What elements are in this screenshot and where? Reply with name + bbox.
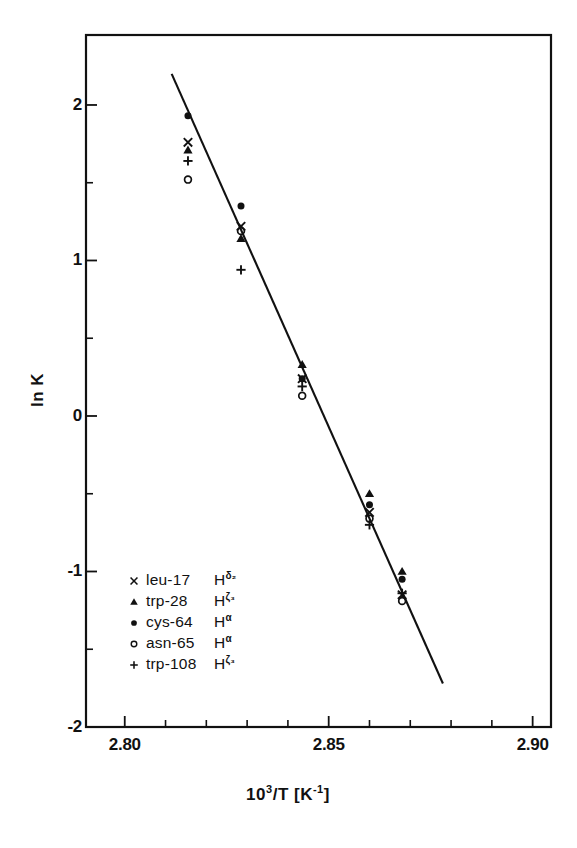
legend-proton-superscript: ζ₃	[225, 654, 235, 665]
data-point	[299, 392, 306, 399]
filled-circle-glyph	[399, 576, 406, 583]
legend-item: asn-65Hα	[126, 633, 236, 654]
van-t-hoff-plot-figure: 2.802.852.90 210-1-2 103/T [K-1] ln K le…	[0, 0, 577, 848]
marker-filled-triangle	[130, 598, 138, 604]
marker-open-circle	[131, 641, 137, 647]
filled-circle-glyph	[131, 620, 137, 626]
legend-marker-plus	[126, 657, 142, 673]
legend-label: trp-28Hζ₃	[146, 591, 235, 610]
x-axis-title-mantissa: 10	[246, 785, 266, 804]
data-point	[398, 567, 407, 575]
legend-proton-superscript: α	[225, 633, 231, 644]
legend-marker-filled-circle	[126, 615, 142, 631]
y-tick-label: -2	[56, 717, 82, 737]
legend-proton-superscript: ζ₃	[225, 591, 235, 602]
data-point	[183, 156, 192, 165]
legend-label: trp-108Hζ₃	[146, 654, 235, 673]
legend-marker-glyph	[126, 657, 142, 673]
legend-marker-cross	[126, 573, 142, 589]
legend-marker-open-circle	[126, 636, 142, 652]
y-tick-label: 2	[56, 95, 82, 115]
y-axis-title: ln K	[28, 373, 48, 407]
x-axis-title-exponent: 3	[266, 783, 273, 795]
data-point	[236, 265, 245, 274]
legend-residue: cys-64	[146, 613, 214, 631]
legend-label: cys-64Hα	[146, 612, 232, 631]
data-point	[399, 598, 406, 605]
y-tick-label: 1	[56, 250, 82, 270]
legend-proton-superscript: δ₂	[225, 570, 236, 581]
x-axis-title-unit-exponent: -1	[313, 783, 324, 795]
series-1	[183, 145, 406, 574]
y-tick-label: 0	[56, 406, 82, 426]
filled-circle-glyph	[238, 203, 245, 210]
filled-triangle-glyph	[398, 567, 407, 575]
legend-proton: Hζ₃	[214, 592, 235, 609]
plot-canvas	[0, 0, 577, 848]
legend-label: asn-65Hα	[146, 633, 232, 652]
series-3	[185, 176, 406, 604]
open-circle-glyph	[399, 598, 406, 605]
data-point	[238, 203, 245, 210]
legend-item: cys-64Hα	[126, 612, 236, 633]
legend-marker-glyph	[126, 636, 142, 652]
legend-marker-glyph	[126, 594, 142, 610]
legend-proton: Hα	[214, 613, 232, 630]
legend-residue: asn-65	[146, 634, 214, 652]
legend-item: trp-108Hζ₃	[126, 654, 236, 675]
legend-item: trp-28Hζ₃	[126, 591, 236, 612]
legend-marker-glyph	[126, 573, 142, 589]
filled-circle-glyph	[299, 375, 306, 382]
legend-item: leu-17Hδ₂	[126, 570, 236, 591]
data-point	[184, 112, 191, 119]
legend-proton-superscript: α	[225, 612, 231, 623]
data-markers	[183, 112, 406, 604]
x-axis-title-close: ]	[324, 785, 330, 804]
data-point	[299, 375, 306, 382]
legend-proton: Hδ₂	[214, 571, 236, 588]
data-point	[185, 176, 192, 183]
x-axis-title-rest: /T [K	[273, 785, 313, 804]
legend-label: leu-17Hδ₂	[146, 570, 236, 589]
legend-residue: trp-108	[146, 655, 214, 673]
series-4	[183, 156, 406, 598]
legend-proton: Hζ₃	[214, 655, 235, 672]
x-axis-title: 103/T [K-1]	[246, 783, 330, 805]
filled-triangle-glyph	[130, 598, 138, 604]
y-tick-label: -1	[56, 561, 82, 581]
data-point	[399, 576, 406, 583]
open-circle-glyph	[299, 392, 306, 399]
x-tick-label: 2.90	[517, 735, 549, 755]
legend: leu-17Hδ₂trp-28Hζ₃cys-64Hαasn-65Hαtrp-10…	[126, 570, 236, 675]
series-0	[184, 138, 407, 599]
legend-marker-filled-triangle	[126, 594, 142, 610]
data-point	[184, 138, 192, 146]
filled-triangle-glyph	[365, 489, 374, 497]
x-tick-label: 2.85	[313, 735, 345, 755]
filled-circle-glyph	[366, 501, 373, 508]
series-2	[184, 112, 405, 582]
marker-cross	[131, 577, 138, 584]
marker-plus	[130, 661, 138, 669]
x-tick-label: 2.80	[109, 735, 141, 755]
legend-marker-glyph	[126, 615, 142, 631]
open-circle-glyph	[131, 641, 137, 647]
legend-residue: trp-28	[146, 592, 214, 610]
data-point	[365, 489, 374, 497]
data-point	[366, 501, 373, 508]
marker-filled-circle	[131, 620, 137, 626]
legend-proton: Hα	[214, 634, 232, 651]
legend-residue: leu-17	[146, 571, 214, 589]
open-circle-glyph	[185, 176, 192, 183]
filled-circle-glyph	[184, 112, 191, 119]
